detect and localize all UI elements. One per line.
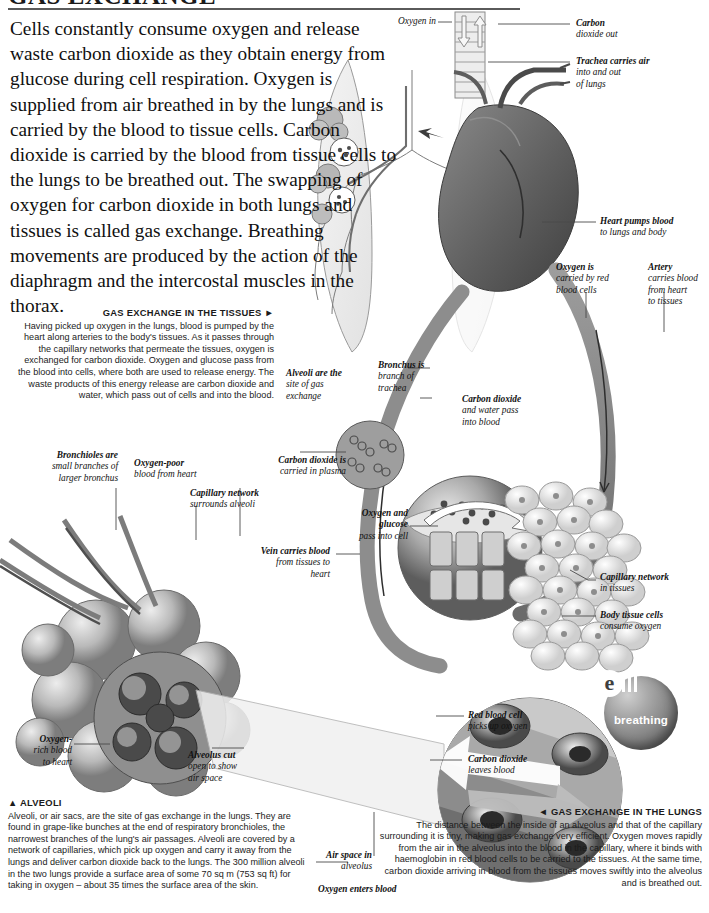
label-body-tissue-cells: Body tissue cells consume oxygen xyxy=(600,610,704,633)
caption-lungs-body: The distance between the inside of an al… xyxy=(372,820,702,890)
label-oxygen-carried-by-rbc: Oxygen is carried by red blood cells xyxy=(556,262,632,296)
header-rule xyxy=(8,8,520,10)
label-oxygen-in: Oxygen in xyxy=(352,16,436,27)
page-title: GAS EXCHANGE xyxy=(8,0,520,6)
label-vein: Vein carries blood from tissues to heart xyxy=(224,546,330,580)
label-trachea: Trachea carries air into and out of lung… xyxy=(576,56,704,90)
label-oxygen-glucose-into-cell: Oxygen and glucose pass into cell xyxy=(336,508,408,542)
caption-lungs-heading: ◄ GAS EXCHANGE IN THE LUNGS xyxy=(372,806,702,818)
caption-tissues-heading: GAS EXCHANGE IN THE TISSUES ► xyxy=(14,307,274,319)
label-co2-water-into-blood: Carbon dioxide and water pass into blood xyxy=(462,394,566,428)
breathing-badge: e breathing xyxy=(604,676,678,750)
label-heart: Heart pumps blood to lungs and body xyxy=(600,216,708,239)
label-bronchus: Bronchus is branch of trachea xyxy=(378,360,452,394)
gas-exchange-page: GAS EXCHANGE Cells constantly consume ox… xyxy=(0,0,709,913)
caption-alveoli: ▲ ALVEOLI Alveoli, or air sacs, are the … xyxy=(8,797,308,892)
badge-label: breathing xyxy=(604,714,678,726)
e-logo-icon: e xyxy=(596,670,642,698)
trachea-art xyxy=(455,12,486,98)
label-artery: Artery carries blood from heart to tissu… xyxy=(648,262,709,308)
capillary-closeup-art xyxy=(336,421,404,489)
label-bronchioles: Bronchioles are small branches of larger… xyxy=(14,450,118,484)
heart-art xyxy=(418,64,578,291)
page-title-text: GAS EXCHANGE xyxy=(8,0,520,6)
label-co2-leaves-blood: Carbon dioxide leaves blood xyxy=(468,754,572,777)
caption-gas-exchange-tissues: GAS EXCHANGE IN THE TISSUES ► Having pic… xyxy=(14,307,274,402)
label-oxygen-rich-blood: Oxygen- rich blood to heart xyxy=(6,734,72,768)
label-capillary-network-tissues: Capillary network in tissues xyxy=(600,572,704,595)
caption-alveoli-body: Alveoli, or air sacs, are the site of ga… xyxy=(8,811,308,892)
label-co2-in-plasma: Carbon dioxide is carried in plasma xyxy=(240,455,346,478)
label-red-blood-cell: Red blood cell picks up oxygen xyxy=(468,710,572,733)
caption-tissues-body: Having picked up oxygen in the lungs, bl… xyxy=(14,321,274,402)
label-oxygen-poor-blood: Oxygen-poor blood from heart xyxy=(134,458,238,481)
label-oxygen-enters-blood: Oxygen enters blood xyxy=(318,884,448,895)
intro-paragraph: Cells constantly consume oxygen and rele… xyxy=(10,16,402,318)
badge-logo-bars xyxy=(622,673,642,693)
label-carbon-dioxide-out: Carbon dioxide out xyxy=(576,18,696,41)
badge-logo-letter: e xyxy=(596,670,623,697)
label-capillary-network-alveoli: Capillary network surrounds alveoli xyxy=(190,488,300,511)
label-alveoli-site: Alveoli are the site of gas exchange xyxy=(286,368,358,402)
label-air-space-in-alveolus: Air space in alveolus xyxy=(300,850,372,873)
caption-gas-exchange-lungs: ◄ GAS EXCHANGE IN THE LUNGS The distance… xyxy=(372,806,702,889)
label-alveolus-cut-open: Alveolus cut open to show air space xyxy=(188,750,274,784)
caption-alveoli-heading: ▲ ALVEOLI xyxy=(8,797,308,809)
